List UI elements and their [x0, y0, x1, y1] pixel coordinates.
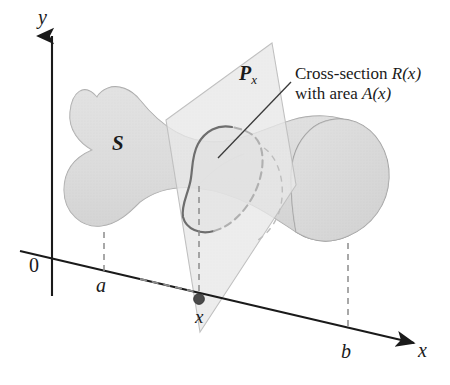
- solid-label-s: S: [112, 131, 124, 156]
- y-axis-label: y: [38, 6, 47, 30]
- plane-label-px: Px: [239, 62, 257, 87]
- origin-label: 0: [29, 254, 39, 278]
- cross-section-volume-diagram: y x 0 a b x S Px Cross-section R(x) with…: [0, 0, 450, 385]
- plane-label-subscript: x: [251, 72, 257, 87]
- diagram-canvas: [0, 0, 450, 385]
- callout-line-1-text: Cross-section: [295, 64, 392, 83]
- callout-line-2: with area A(x): [295, 84, 421, 104]
- callout-line-2-math: A(x): [362, 84, 391, 103]
- point-x-marker: [194, 294, 205, 305]
- point-x-label: x: [195, 306, 203, 328]
- x-axis-label: x: [418, 339, 427, 363]
- tick-label-a: a: [96, 274, 106, 298]
- callout-line-2-text: with area: [295, 84, 362, 103]
- cross-section-callout: Cross-section R(x) with area A(x): [295, 64, 421, 104]
- tick-label-b: b: [341, 340, 351, 364]
- callout-line-1: Cross-section R(x): [295, 64, 421, 84]
- callout-line-1-math: R(x): [392, 64, 421, 83]
- plane-label-base: P: [239, 62, 251, 84]
